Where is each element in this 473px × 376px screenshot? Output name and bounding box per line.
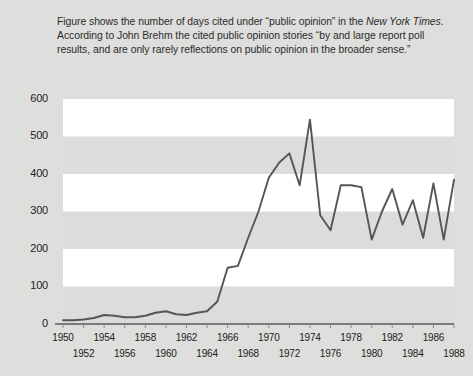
x-axis-label-1966: 1966 bbox=[211, 332, 245, 343]
x-axis-label-1970: 1970 bbox=[252, 332, 286, 343]
x-axis-label-1968: 1968 bbox=[231, 348, 265, 359]
plot-band-400-500 bbox=[63, 137, 454, 175]
line-chart: 0100200300400500600195019541958196219661… bbox=[0, 0, 473, 376]
x-axis-label-1982: 1982 bbox=[375, 332, 409, 343]
y-axis-label-100: 100 bbox=[8, 279, 48, 291]
x-axis-label-1952: 1952 bbox=[67, 348, 101, 359]
plot-band-100-200 bbox=[63, 249, 454, 287]
x-axis-label-1950: 1950 bbox=[46, 332, 80, 343]
x-axis-label-1978: 1978 bbox=[334, 332, 368, 343]
x-axis-label-1960: 1960 bbox=[149, 348, 183, 359]
x-axis-label-1974: 1974 bbox=[293, 332, 327, 343]
x-axis-label-1956: 1956 bbox=[108, 348, 142, 359]
figure-container: Figure shows the number of days cited un… bbox=[0, 0, 473, 376]
x-axis-label-1964: 1964 bbox=[190, 348, 224, 359]
y-axis-label-200: 200 bbox=[8, 242, 48, 254]
plot-band-300-400 bbox=[63, 174, 454, 212]
x-axis-label-1980: 1980 bbox=[355, 348, 389, 359]
y-axis-label-400: 400 bbox=[8, 167, 48, 179]
x-axis-label-1972: 1972 bbox=[272, 348, 306, 359]
chart-svg bbox=[0, 0, 473, 376]
plot-band-500-600 bbox=[63, 99, 454, 137]
y-axis-label-600: 600 bbox=[8, 92, 48, 104]
y-axis-label-500: 500 bbox=[8, 129, 48, 141]
y-axis-label-0: 0 bbox=[8, 317, 48, 329]
plot-band-0-100 bbox=[63, 287, 454, 325]
x-axis-label-1986: 1986 bbox=[416, 332, 450, 343]
x-axis-label-1984: 1984 bbox=[396, 348, 430, 359]
plot-band-200-300 bbox=[63, 212, 454, 250]
x-axis-label-1988: 1988 bbox=[437, 348, 471, 359]
x-axis-label-1958: 1958 bbox=[128, 332, 162, 343]
y-axis-label-300: 300 bbox=[8, 204, 48, 216]
x-axis-label-1976: 1976 bbox=[314, 348, 348, 359]
x-axis-label-1954: 1954 bbox=[87, 332, 121, 343]
x-axis-label-1962: 1962 bbox=[169, 332, 203, 343]
